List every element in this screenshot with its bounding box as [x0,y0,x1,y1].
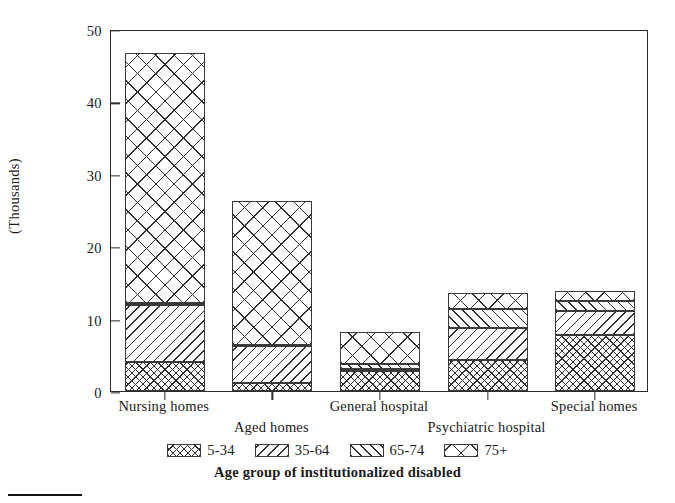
bar-segment-35-64 [232,346,312,383]
bar-segment-75+ [555,291,635,301]
x-tick-label: Psychiatric hospital [428,419,546,436]
plot-area: 01020304050 [110,30,648,392]
bar-general-hospital [340,29,420,391]
legend-label: 35-64 [295,442,330,459]
y-tick-mark [111,103,120,104]
bar-segment-65-74 [555,301,635,311]
bar-psychiatric-hospital [448,29,528,391]
y-tick-mark [111,30,120,31]
legend-label: 5-34 [207,442,234,459]
y-tick-label: 50 [87,23,111,40]
y-axis-title: (Thousands) [6,158,23,234]
x-tick-label: Special homes [551,398,638,415]
legend-swatch-35-64 [255,444,289,457]
bar-special-homes [555,29,635,391]
legend-swatch-75+ [444,444,478,457]
bar-segment-75+ [125,53,205,303]
y-tick-mark [111,320,120,321]
bar-nursing-homes [125,29,205,391]
y-tick-mark [111,248,120,249]
stacked-bar-chart: (Thousands) 01020304050 5-3435-6465-7475… [0,0,675,503]
legend-item-65-74: 65-74 [350,442,425,459]
bar-segment-5-34 [555,335,635,391]
x-tick-label: Aged homes [234,419,309,436]
footer-rule [8,494,82,496]
bar-segment-75+ [448,293,528,310]
x-tick-label: Nursing homes [118,398,209,415]
bar-segment-75+ [340,332,420,365]
bar-segment-5-34 [340,371,420,391]
legend-item-5-34: 5-34 [167,442,234,459]
bar-segment-65-74 [125,303,205,305]
x-tick-mark [272,391,273,400]
legend-swatch-5-34 [167,444,201,457]
bar-segment-35-64 [555,311,635,335]
bar-segment-65-74 [340,364,420,369]
bar-segment-75+ [232,201,312,345]
y-tick-label: 0 [94,385,111,402]
legend-item-75+: 75+ [444,442,507,459]
y-tick-label: 40 [87,95,111,112]
x-tick-mark [487,391,488,400]
legend-label: 65-74 [390,442,425,459]
y-tick-label: 20 [87,240,111,257]
x-axis-title: Age group of institutionalized disabled [0,464,675,481]
x-tick-label: General hospital [330,398,429,415]
bar-segment-5-34 [125,362,205,391]
y-tick-mark [111,392,120,393]
bar-segment-5-34 [448,360,528,391]
bar-segment-35-64 [125,305,205,362]
bar-segment-5-34 [232,383,312,391]
y-tick-mark [111,175,120,176]
bar-segment-65-74 [448,309,528,328]
chart-legend: 5-3435-6465-7475+ [0,442,675,459]
legend-swatch-65-74 [350,444,384,457]
bar-aged-homes [232,29,312,391]
y-tick-label: 30 [87,167,111,184]
y-tick-label: 10 [87,312,111,329]
legend-label: 75+ [484,442,507,459]
bar-segment-35-64 [448,328,528,360]
bar-segment-35-64 [340,369,420,371]
legend-item-35-64: 35-64 [255,442,330,459]
